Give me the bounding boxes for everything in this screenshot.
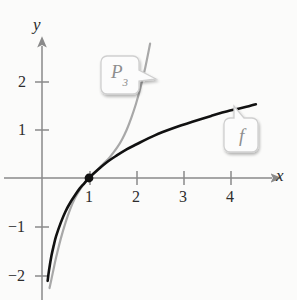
marked-point bbox=[85, 174, 94, 183]
y-tick-label-2: 2 bbox=[18, 74, 26, 90]
y-tick-label-neg2: −2 bbox=[8, 268, 25, 284]
callout-P3-subscript: 3 bbox=[123, 76, 129, 88]
figure-canvas: y x 1 2 3 4 2 1 −1 −2 P3 f bbox=[0, 0, 297, 300]
x-axis-label: x bbox=[276, 167, 284, 184]
x-tick-label-2: 2 bbox=[132, 189, 140, 205]
y-tick-label-neg1: −1 bbox=[8, 219, 25, 235]
callout-P3-base: P bbox=[111, 61, 123, 82]
x-tick-label-4: 4 bbox=[226, 189, 234, 205]
callout-P3 bbox=[101, 56, 156, 94]
plot-svg bbox=[0, 0, 297, 300]
y-tick-label-1: 1 bbox=[18, 122, 26, 138]
x-tick-label-1: 1 bbox=[85, 189, 93, 205]
callout-P3-label: P3 bbox=[111, 62, 128, 85]
callout-f-label: f bbox=[239, 126, 244, 145]
callout-P3-balloon bbox=[101, 56, 156, 94]
y-axis-label: y bbox=[33, 16, 41, 33]
x-tick-label-3: 3 bbox=[179, 189, 187, 205]
